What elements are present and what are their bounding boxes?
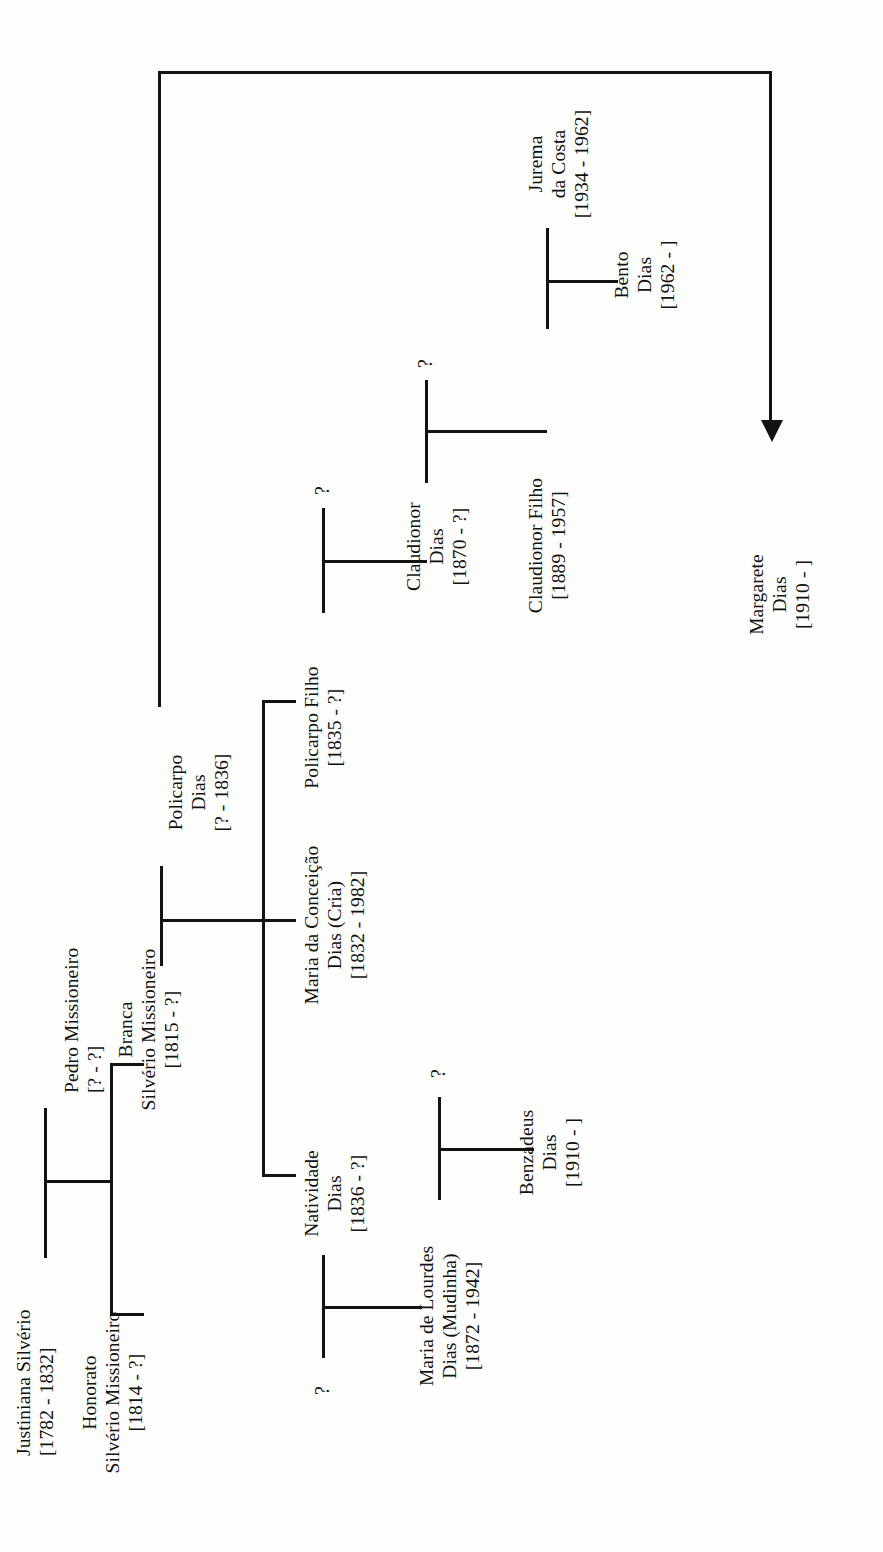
person-name-2: Dias <box>425 479 448 614</box>
arrow-down-icon <box>761 420 783 442</box>
person-name-2: da Costa <box>547 100 570 228</box>
connector-children-claudionor-filho-jurema <box>546 280 618 283</box>
person-name-2: Dias <box>768 532 791 657</box>
person-policarpo-filho[interactable]: Policarpo Filho [1835 - ?] <box>300 655 346 800</box>
connector-children-branca-policarpo <box>160 919 265 922</box>
person-unknown-spouse-policarpo-filho[interactable]: ? <box>311 486 334 495</box>
connector-sibling-bracket-dias <box>262 700 265 1177</box>
connector-policarpo-ancestor-vertical <box>158 71 161 707</box>
person-claudionor-dias[interactable]: Claudionor Dias [1870 - ?] <box>402 479 471 614</box>
connector-sibling-bracket-honorato-branca <box>110 1063 113 1316</box>
person-name-1: Honorato <box>78 1300 101 1485</box>
person-dates: [? - 1836] <box>210 730 233 855</box>
person-dates: [1872 - 1942] <box>461 1217 484 1415</box>
connector-stub-maria-conceicao <box>262 919 296 922</box>
person-name: Pedro Missioneiro <box>60 948 83 1093</box>
person-dates: [1889 - 1957] <box>547 468 570 623</box>
person-name: Policarpo Filho <box>300 655 323 800</box>
person-claudionor-filho[interactable]: Claudionor Filho [1889 - 1957] <box>524 468 570 623</box>
person-maria-de-lourdes-dias[interactable]: Maria de Lourdes Dias (Mudinha) [1872 - … <box>415 1217 484 1415</box>
person-name: Claudionor Filho <box>524 468 547 623</box>
person-dates: [1815 - ?] <box>160 937 183 1122</box>
person-name-2: Dias <box>323 1126 346 1261</box>
genealogy-chart: Justiniana Silvério [1782 - 1832] Pedro … <box>0 0 883 1552</box>
person-dates: [1836 - ?] <box>346 1126 369 1261</box>
connector-spouse-bar-justiniana-pedro <box>44 1108 47 1258</box>
person-name-2: Dias (Cria) <box>323 825 346 1025</box>
connector-stub-natividade <box>262 1174 296 1177</box>
person-unknown-spouse-maria-de-lourdes[interactable]: ? <box>427 1069 450 1078</box>
person-name-1: Natividade <box>300 1126 323 1261</box>
person-name-2: Silvério Missioneiro <box>101 1300 124 1485</box>
connector-children-claudionor <box>425 430 547 433</box>
person-name-2: Dias (Mudinha) <box>438 1217 461 1415</box>
person-natividade-dias[interactable]: Natividade Dias [1836 - ?] <box>300 1126 369 1261</box>
person-name-1: Maria de Lourdes <box>415 1217 438 1415</box>
person-benzadeus-dias[interactable]: Benzadeus Dias [1910 - ] <box>515 1090 584 1215</box>
person-name-2: Silvério Missioneiro <box>137 937 160 1122</box>
person-unknown-spouse-claudionor[interactable]: ? <box>414 359 437 368</box>
person-dates: [1962 - ] <box>656 220 679 330</box>
connector-stub-policarpo-filho <box>262 700 296 703</box>
person-dates: [1870 - ?] <box>448 479 471 614</box>
connector-top-long-horizontal <box>158 71 772 74</box>
person-name-1: Bento <box>610 220 633 330</box>
person-name-1: Branca <box>114 937 137 1122</box>
person-name-1: Policarpo <box>164 730 187 855</box>
person-branca-silverio-missioneiro[interactable]: Branca Silvério Missioneiro [1815 - ?] <box>114 937 183 1122</box>
person-name-2: Dias <box>538 1090 561 1215</box>
person-name-1: Jurema <box>524 100 547 228</box>
person-justiniana-silverio[interactable]: Justiniana Silvério [1782 - 1832] <box>12 1309 58 1456</box>
person-name-1: Maria da Conceição <box>300 825 323 1025</box>
person-jurema-da-costa[interactable]: Jurema da Costa [1934 - 1962] <box>524 100 593 228</box>
person-name-2: Dias <box>633 220 656 330</box>
person-dates: [1814 - ?] <box>124 1300 147 1485</box>
person-dates: [1910 - ] <box>791 532 814 657</box>
person-dates: [1835 - ?] <box>323 655 346 800</box>
person-maria-da-conceicao-dias[interactable]: Maria da Conceição Dias (Cria) [1832 - 1… <box>300 825 369 1025</box>
person-honorato-silverio-missioneiro[interactable]: Honorato Silvério Missioneiro [1814 - ?] <box>78 1300 147 1485</box>
connector-spouse-bar-claudionor-filho-jurema <box>546 228 549 329</box>
connector-children-justiniana-pedro <box>44 1180 112 1183</box>
person-dates: [1782 - 1832] <box>35 1309 58 1456</box>
person-policarpo-dias[interactable]: Policarpo Dias [? - 1836] <box>164 730 233 855</box>
person-dates: [1832 - 1982] <box>346 825 369 1025</box>
person-dates: [? - ?] <box>83 948 106 1093</box>
person-name: Justiniana Silvério <box>12 1309 35 1456</box>
connector-margarete-descent-vertical <box>769 71 772 423</box>
person-name-1: Margarete <box>745 532 768 657</box>
person-dates: [1910 - ] <box>561 1090 584 1215</box>
person-name-1: Benzadeus <box>515 1090 538 1215</box>
connector-children-natividade <box>322 1306 422 1309</box>
person-name-2: Dias <box>187 730 210 855</box>
person-dates: [1934 - 1962] <box>570 100 593 228</box>
person-margarete-dias[interactable]: Margarete Dias [1910 - ] <box>745 532 814 657</box>
person-bento-dias[interactable]: Bento Dias [1962 - ] <box>610 220 679 330</box>
person-unknown-spouse-natividade[interactable]: ? <box>311 1386 334 1395</box>
person-name-1: Claudionor <box>402 479 425 614</box>
person-pedro-missioneiro[interactable]: Pedro Missioneiro [? - ?] <box>60 948 106 1093</box>
